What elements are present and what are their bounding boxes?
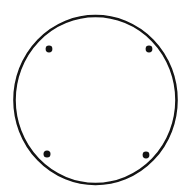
circle-diagram [0, 0, 193, 194]
bottom-right-dot [143, 152, 150, 159]
top-left-dot [46, 46, 53, 53]
outer-circle-outline [15, 16, 177, 184]
figure-canvas [0, 0, 193, 194]
top-right-dot [146, 46, 153, 53]
bottom-left-dot [44, 151, 51, 158]
